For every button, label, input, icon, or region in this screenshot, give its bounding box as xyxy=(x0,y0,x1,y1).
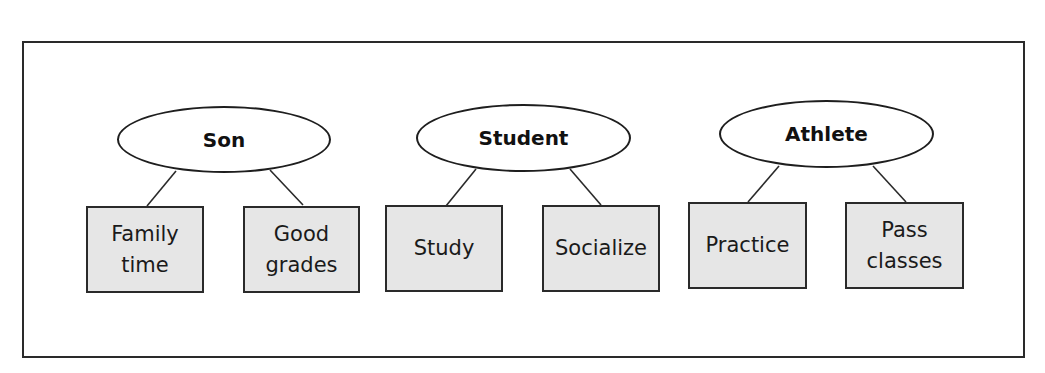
connector-athlete-pass-classes xyxy=(873,166,906,202)
connector-student-socialize xyxy=(570,169,601,205)
goal-box-pass-classes: Pass classes xyxy=(845,202,964,289)
goal-box-socialize: Socialize xyxy=(542,205,660,292)
connector-son-good-grades xyxy=(270,170,303,205)
goal-box-study: Study xyxy=(385,205,503,292)
connector-student-study xyxy=(446,169,476,206)
role-node-student: Student xyxy=(416,104,631,172)
goal-box-family-time: Family time xyxy=(86,206,204,293)
connector-lines xyxy=(0,0,1045,373)
goal-box-practice: Practice xyxy=(688,202,807,289)
connector-son-family-time xyxy=(147,171,176,206)
connector-athlete-practice xyxy=(748,166,779,202)
role-node-athlete: Athlete xyxy=(719,100,934,168)
role-node-son: Son xyxy=(117,106,331,173)
goal-box-good-grades: Good grades xyxy=(243,206,360,293)
